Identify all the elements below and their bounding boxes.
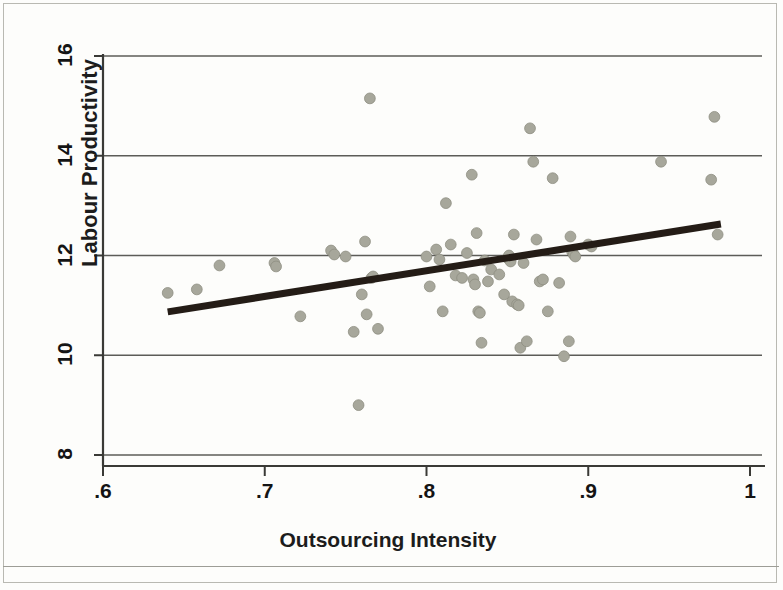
x-tick-label: 1: [727, 479, 773, 503]
y-tick-label: 8: [53, 434, 77, 474]
scatter-point: [434, 254, 445, 265]
scatter-point: [483, 276, 494, 287]
scatter-point: [373, 323, 384, 334]
x-axis-title: Outsourcing Intensity: [153, 528, 623, 552]
scatter-point: [528, 156, 539, 167]
scatter-point: [656, 156, 667, 167]
x-tick-label: .8: [404, 479, 450, 503]
scatter-point: [476, 337, 487, 348]
scatter-point: [329, 249, 340, 260]
scatter-point: [340, 251, 351, 262]
scatter-point: [431, 244, 442, 255]
gridlines: [103, 56, 762, 455]
regression-line: [168, 224, 721, 312]
scatter-plot-figure: Labour Productivity Outsourcing Intensit…: [0, 0, 783, 590]
tick-marks: [94, 56, 750, 476]
scatter-point: [513, 300, 524, 311]
y-axis-title: Labour Productivity: [77, 13, 103, 313]
scatter-point: [361, 309, 372, 320]
scatter-point: [421, 251, 432, 262]
scatter-point: [542, 306, 553, 317]
scatter-point: [474, 307, 485, 318]
scatter-point: [191, 284, 202, 295]
scatter-point: [364, 93, 375, 104]
y-tick-label: 14: [53, 135, 77, 175]
scatter-points: [162, 93, 723, 411]
scatter-point: [445, 239, 456, 250]
scatter-point: [295, 311, 306, 322]
scatter-point: [424, 281, 435, 292]
scatter-point: [348, 326, 359, 337]
scatter-point: [470, 279, 481, 290]
scatter-point: [356, 289, 367, 300]
scatter-point: [538, 274, 549, 285]
scatter-point: [531, 234, 542, 245]
y-tick-label: 10: [53, 334, 77, 374]
x-tick-label: .7: [242, 479, 288, 503]
scatter-point: [559, 351, 570, 362]
scatter-point: [570, 251, 581, 262]
scatter-point: [525, 123, 536, 134]
scatter-point: [457, 273, 468, 284]
scatter-point: [441, 198, 452, 209]
scatter-point: [494, 269, 505, 280]
scatter-point: [712, 229, 723, 240]
scatter-point: [271, 261, 282, 272]
scatter-point: [706, 174, 717, 185]
axis-lines: [102, 54, 765, 466]
fit-line: [168, 224, 721, 312]
scatter-point: [466, 169, 477, 180]
y-tick-label: 16: [53, 35, 77, 75]
scatter-point: [353, 400, 364, 411]
scatter-point: [462, 248, 473, 259]
scatter-point: [471, 228, 482, 239]
plot-area: Labour Productivity Outsourcing Intensit…: [0, 0, 783, 590]
scatter-point: [547, 173, 558, 184]
scatter-point: [437, 306, 448, 317]
scatter-point: [563, 336, 574, 347]
scatter-point: [521, 336, 532, 347]
scatter-point: [162, 288, 173, 299]
scatter-point: [360, 236, 371, 247]
y-tick-label: 12: [53, 235, 77, 275]
x-tick-label: .9: [565, 479, 611, 503]
x-tick-label: .6: [80, 479, 126, 503]
scatter-point: [214, 260, 225, 271]
scatter-point: [554, 278, 565, 289]
scatter-point: [709, 111, 720, 122]
scatter-point: [565, 231, 576, 242]
scatter-point: [508, 229, 519, 240]
